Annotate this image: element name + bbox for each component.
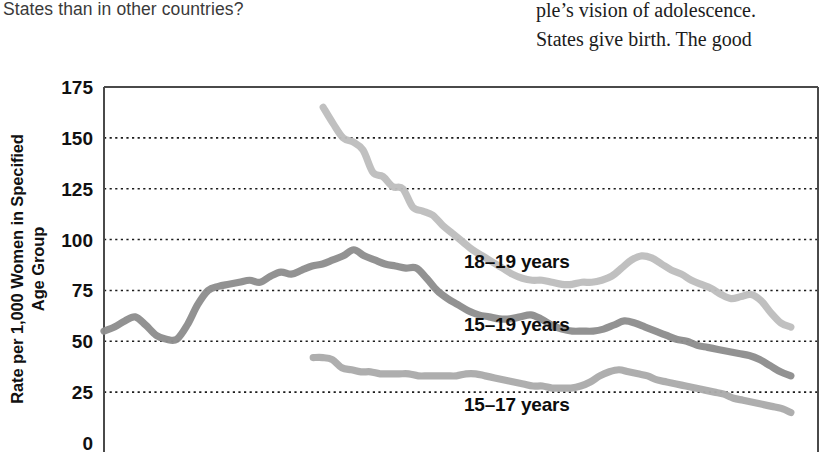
series-label-15-17: 15–17 years <box>464 394 570 415</box>
gridline-group <box>104 138 818 392</box>
teen-birth-rate-line-chart: Rate per 1,000 Women in Specified Age Gr… <box>0 78 831 452</box>
y-tick-label-100: 100 <box>61 230 93 251</box>
series-label-18-19: 18–19 years <box>464 251 570 272</box>
y-tick-label-75: 75 <box>72 280 94 301</box>
right-text-column: ple’s vision of adolescence. States give… <box>536 0 831 54</box>
left-text-column: States than in other countries? <box>3 0 473 22</box>
y-tick-label-125: 125 <box>61 179 93 200</box>
y-tick-label-group: 0255075100125150175 <box>61 78 93 452</box>
axis-group <box>104 87 818 452</box>
right-text-line-2: States give birth. The good <box>536 25 831 54</box>
data-series-group <box>104 107 791 412</box>
y-tick-label-25: 25 <box>72 382 94 403</box>
chart-plot-area: 0255075100125150175 18–19 years15–19 yea… <box>0 78 831 452</box>
y-tick-label-50: 50 <box>72 331 93 352</box>
y-tick-label-0: 0 <box>82 433 93 452</box>
series-line-1 <box>323 107 791 327</box>
series-label-15-19: 15–19 years <box>464 314 570 335</box>
right-text-line-1: ple’s vision of adolescence. <box>536 0 831 25</box>
y-tick-label-175: 175 <box>61 78 93 98</box>
y-tick-label-150: 150 <box>61 128 93 149</box>
series-line-2 <box>104 250 791 376</box>
